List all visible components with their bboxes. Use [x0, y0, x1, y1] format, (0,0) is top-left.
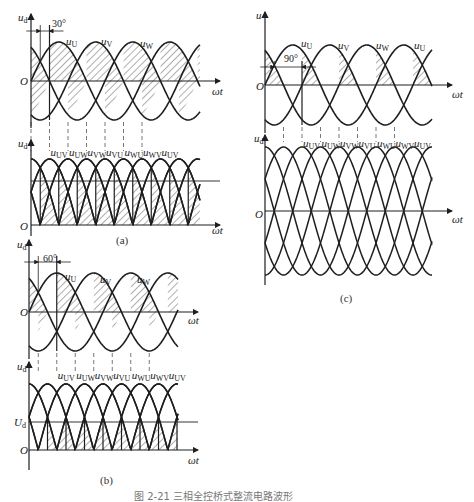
line-voltage-label: uVU [106, 147, 123, 161]
panel-b-top-x-axis-label: ωt [188, 315, 199, 326]
panel-a-top-origin-label: O [20, 76, 28, 87]
line-voltage-label: uVU [359, 138, 376, 152]
panel-a-firing-angle-label: 30° [52, 18, 66, 29]
panel-c-firing-angle-label: 90° [284, 53, 298, 64]
panel-a-phase-label-w: uW [140, 38, 153, 52]
line-voltage-label: uVU [113, 370, 130, 384]
line-voltage-label: uWV [396, 138, 415, 152]
panel-b-bottom-x-axis-label: ωt [188, 455, 199, 466]
panel-c-phase-label-v: uV [338, 40, 349, 54]
line-voltage-label: uUW [69, 147, 88, 161]
figure-caption: 图 2-21 三相全控桥式整流电路波形 [134, 488, 293, 502]
panel-c-phase-label-u2: uU [414, 40, 425, 54]
line-voltage-label: uUV [51, 147, 68, 161]
line-voltage-label: uWU [377, 138, 396, 152]
panel-b-bottom-origin-label: O [20, 445, 28, 456]
panel-c-bottom-y-axis-label: ud [254, 133, 264, 147]
panel-b-firing-angle-label: 60° [43, 253, 57, 264]
panel-c-caption: (c) [340, 292, 352, 304]
panel-a-bottom-origin-label: O [20, 221, 28, 232]
waveform-figure [0, 0, 474, 502]
panel-c-phase-label-u1: uU [301, 38, 312, 52]
panel-a-top-y-axis-label: ud [18, 12, 28, 26]
panel-c-top-y-axis-label: u [256, 10, 262, 24]
panel-b-phase-label-v: uV [100, 274, 111, 288]
line-voltage-label: uWU [132, 370, 151, 384]
panel-b-phase-label-w: uW [137, 274, 150, 288]
panel-a-bottom-x-axis-label: ωt [212, 225, 223, 236]
panel-a-bottom-y-axis-label: ud [18, 138, 28, 152]
panel-a-phase-label-v: uV [101, 36, 112, 50]
line-voltage-label: uWU [125, 147, 144, 161]
line-voltage-label: uUV [169, 370, 186, 384]
panel-a-caption: (a) [116, 234, 128, 246]
line-voltage-label: uUV [414, 138, 431, 152]
line-voltage-label: uUV [58, 370, 75, 384]
line-voltage-label: uUV [162, 147, 179, 161]
panel-c-top-origin-label: O [256, 81, 264, 92]
line-voltage-label: uWV [143, 147, 162, 161]
hatched-regions [29, 42, 432, 450]
line-voltage-label: uVW [88, 147, 107, 161]
panel-c-phase-label-w: uW [376, 40, 389, 54]
waveform-curves [29, 42, 432, 450]
panel-c-bottom-origin-label: O [255, 209, 263, 220]
panel-a-phase-label-u: uU [66, 36, 77, 50]
panel-a-top-x-axis-label: ωt [212, 86, 223, 97]
panel-b-top-y-axis-label: ud [17, 239, 27, 253]
line-voltage-label: uVW [340, 138, 359, 152]
panel-b-bottom-y-axis-label: ud [17, 361, 27, 375]
panel-c-bottom-x-axis-label: ωt [452, 214, 463, 225]
line-voltage-label: uVW [95, 370, 114, 384]
panel-b-mean-voltage-label: Ud [14, 417, 26, 431]
panel-b-phase-label-u: uU [65, 271, 76, 285]
panel-b-caption: (b) [100, 474, 113, 486]
line-voltage-label: uWV [150, 370, 169, 384]
line-voltage-label: uUW [76, 370, 95, 384]
line-voltage-label: uUW [322, 138, 341, 152]
panel-b-top-origin-label: O [20, 307, 28, 318]
line-voltage-label: uUV [303, 138, 320, 152]
panel-c-top-x-axis-label: ωt [452, 89, 463, 100]
